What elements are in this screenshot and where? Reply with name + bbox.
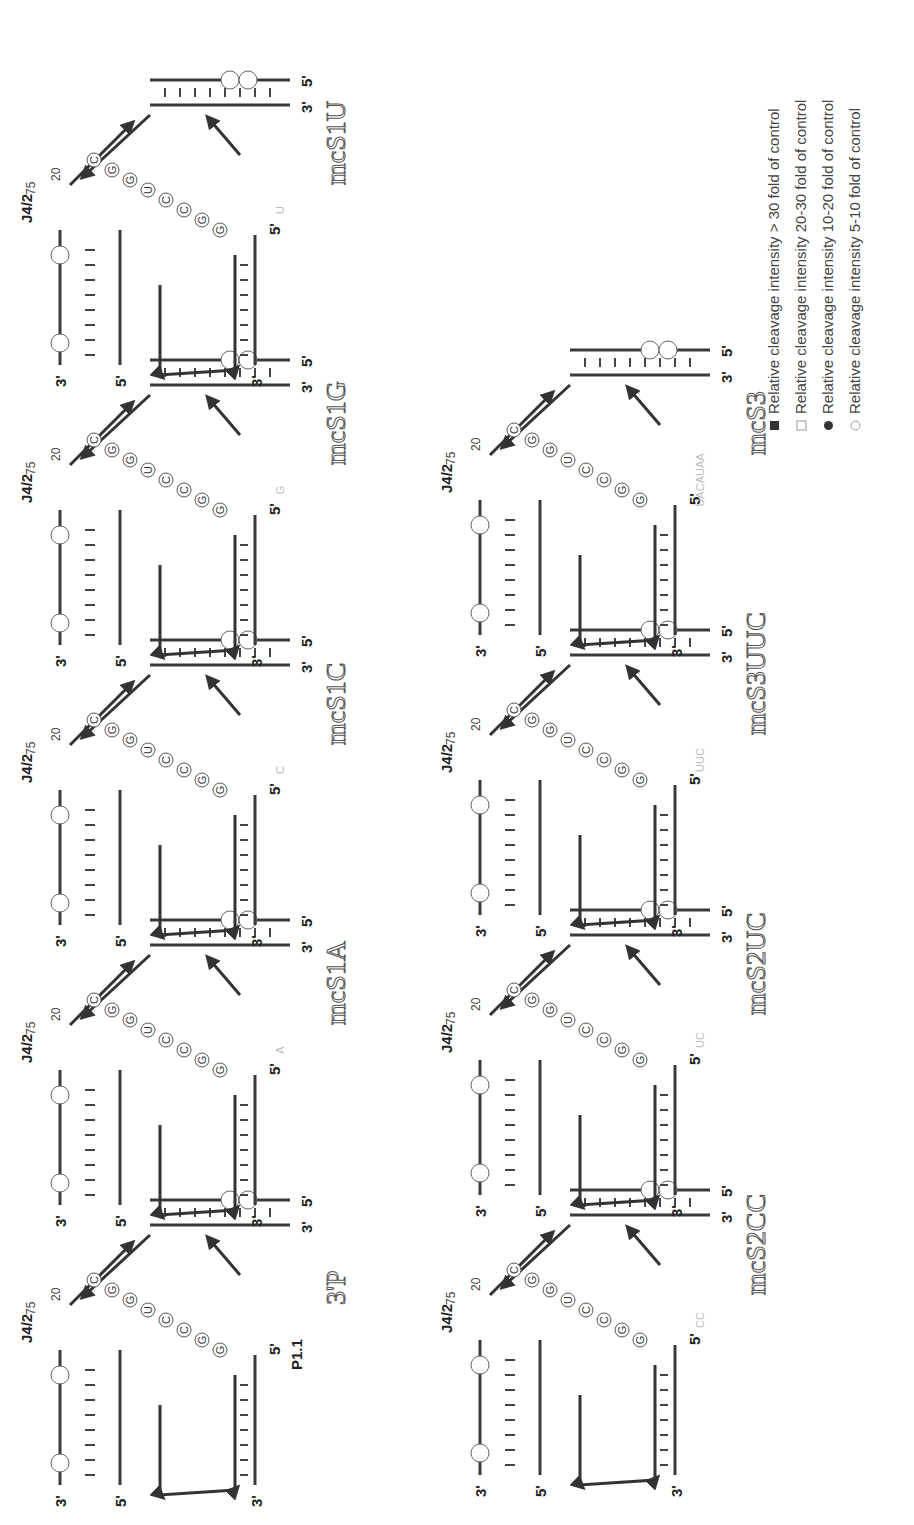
svg-text:J4/2: J4/2	[438, 1024, 455, 1053]
svg-text:3': 3'	[298, 101, 315, 113]
svg-text:U: U	[562, 456, 574, 464]
svg-text:C: C	[160, 1316, 172, 1324]
svg-text:C: C	[88, 156, 100, 164]
legend-item-open-circle: Relative cleavage intensity 5-10 fold of…	[846, 108, 863, 430]
svg-text:20: 20	[469, 997, 483, 1011]
svg-text:5': 5'	[532, 645, 549, 657]
svg-text:U: U	[562, 1296, 574, 1304]
svg-text:20: 20	[49, 167, 63, 181]
svg-text:G: G	[526, 716, 538, 725]
panel-mcS1A: 3'5'J4/275203'5'A3'5'GGCCUGGCmcS1A	[18, 911, 351, 1227]
svg-text:U: U	[142, 1026, 154, 1034]
svg-text:J4/2: J4/2	[438, 464, 455, 493]
svg-text:3': 3'	[668, 1485, 685, 1497]
svg-text:G: G	[544, 726, 556, 735]
svg-text:3': 3'	[298, 661, 315, 673]
svg-text:5': 5'	[266, 1063, 283, 1075]
svg-text:20: 20	[49, 1287, 63, 1301]
open-square-icon	[797, 421, 806, 430]
svg-text:C: C	[178, 486, 190, 494]
svg-text:G: G	[526, 436, 538, 445]
svg-text:G: G	[526, 1276, 538, 1285]
svg-text:3': 3'	[298, 941, 315, 953]
svg-text:5': 5'	[532, 1205, 549, 1217]
panel-mcS3UUC: 3'5'J4/275203'5'UUC3'5'GGCCUGGCmcS3UUC	[438, 612, 771, 937]
svg-text:C: C	[580, 1306, 592, 1314]
panel-title: mcS1G	[320, 381, 351, 465]
svg-text:C: C	[178, 766, 190, 774]
svg-text:G: G	[106, 1286, 118, 1295]
svg-text:3': 3'	[52, 375, 69, 387]
panel-mcS3: 3'5'J4/275203'5'UACAUAA3'5'GGCCUGGCmcS3	[438, 341, 771, 657]
svg-text:C: C	[178, 1326, 190, 1334]
svg-text:G: G	[124, 1296, 136, 1305]
legend-label: Relative cleavage intensity 10-20 fold o…	[819, 100, 836, 414]
svg-text:U: U	[142, 466, 154, 474]
svg-text:3': 3'	[298, 381, 315, 393]
svg-text:G: G	[526, 996, 538, 1005]
panel-mcS2UC: 3'5'J4/275203'5'UC3'5'GGCCUGGCmcS2UC	[438, 901, 771, 1217]
svg-text:3': 3'	[298, 1221, 315, 1233]
svg-text:C: C	[508, 426, 520, 434]
svg-text:A: A	[274, 1046, 286, 1054]
svg-text:C: C	[178, 1046, 190, 1054]
svg-text:5': 5'	[718, 905, 735, 917]
svg-text:3': 3'	[668, 925, 685, 937]
svg-text:G: G	[616, 766, 628, 775]
svg-text:5': 5'	[718, 1185, 735, 1197]
svg-text:75: 75	[24, 1301, 38, 1315]
svg-text:5': 5'	[298, 1195, 315, 1207]
svg-text:C: C	[598, 756, 610, 764]
svg-text:G: G	[616, 1046, 628, 1055]
svg-text:20: 20	[469, 1277, 483, 1291]
svg-text:G: G	[106, 726, 118, 735]
svg-text:3': 3'	[472, 925, 489, 937]
svg-text:C: C	[88, 1276, 100, 1284]
panel-mcS1U: 3'5'J4/275203'5'U3'5'GGCCUGGCmcS1U	[18, 71, 351, 387]
svg-text:C: C	[160, 196, 172, 204]
svg-text:C: C	[178, 206, 190, 214]
svg-text:G: G	[634, 1056, 646, 1065]
svg-text:G: G	[214, 786, 226, 795]
legend-label: Relative cleavage intensity 20-30 fold o…	[792, 100, 809, 414]
svg-text:U: U	[142, 1306, 154, 1314]
panel-mcS1C: 3'5'J4/275203'5'C3'5'GGCCUGGCmcS1C	[18, 631, 351, 947]
svg-text:3': 3'	[248, 1215, 265, 1227]
svg-text:3': 3'	[472, 1205, 489, 1217]
svg-text:3': 3'	[472, 645, 489, 657]
svg-text:J4/2: J4/2	[438, 1304, 455, 1333]
svg-text:J4/2: J4/2	[18, 1034, 35, 1063]
svg-text:G: G	[634, 776, 646, 785]
panel-mcS2CC: 3'5'J4/275203'5'CC3'5'GGCCUGGCmcS2CC	[438, 1181, 771, 1497]
svg-text:3': 3'	[248, 375, 265, 387]
svg-text:G: G	[196, 1336, 208, 1345]
svg-text:G: G	[196, 216, 208, 225]
panel-title: mcS2CC	[740, 1194, 771, 1295]
svg-text:UUC: UUC	[694, 748, 706, 772]
svg-text:75: 75	[24, 181, 38, 195]
svg-text:3': 3'	[52, 935, 69, 947]
svg-text:75: 75	[444, 1011, 458, 1025]
svg-text:3': 3'	[52, 655, 69, 667]
svg-text:5': 5'	[298, 635, 315, 647]
svg-text:5': 5'	[686, 1333, 703, 1345]
svg-text:5': 5'	[298, 355, 315, 367]
svg-text:5': 5'	[686, 773, 703, 785]
svg-text:C: C	[580, 466, 592, 474]
svg-text:G: G	[214, 1066, 226, 1075]
svg-text:G: G	[106, 166, 118, 175]
svg-text:5': 5'	[266, 503, 283, 515]
svg-text:G: G	[214, 226, 226, 235]
filled-circle-icon	[824, 421, 833, 430]
svg-text:5': 5'	[112, 655, 129, 667]
svg-text:C: C	[598, 476, 610, 484]
panel-title: mcS2UC	[740, 912, 771, 1015]
svg-text:3': 3'	[718, 371, 735, 383]
svg-text:G: G	[616, 1326, 628, 1335]
svg-text:C: C	[160, 476, 172, 484]
svg-text:5': 5'	[112, 1215, 129, 1227]
svg-text:5': 5'	[112, 1495, 129, 1507]
svg-text:G: G	[196, 496, 208, 505]
svg-text:J4/2: J4/2	[18, 474, 35, 503]
svg-text:5': 5'	[112, 935, 129, 947]
